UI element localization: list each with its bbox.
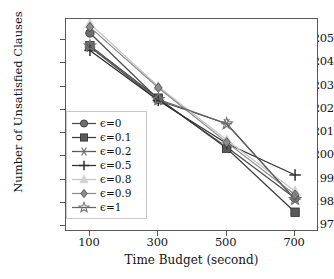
legend-label: ϵ=0.2: [100, 146, 131, 157]
x-axis-title: Time Budget (second): [65, 254, 318, 267]
legend-label: ϵ=0.1: [100, 132, 131, 143]
legend-label: ϵ=0: [100, 118, 121, 129]
legend-item[interactable]: ϵ=0.9: [70, 186, 142, 200]
legend-label: ϵ=1: [100, 202, 121, 213]
legend-item[interactable]: ϵ=0.2: [70, 144, 142, 158]
x-tick-label: 700: [269, 236, 319, 248]
x-tick-mark: [226, 231, 227, 236]
legend: ϵ=0ϵ=0.1ϵ=0.2ϵ=0.5ϵ=0.8ϵ=0.9ϵ=1: [66, 111, 147, 219]
x-tick-label: 100: [64, 236, 114, 248]
legend-item[interactable]: ϵ=1: [70, 200, 142, 214]
x-tick-label: 500: [201, 236, 251, 248]
legend-item[interactable]: ϵ=0.8: [70, 172, 142, 186]
legend-label: ϵ=0.9: [100, 188, 131, 199]
legend-marker-plus-icon: [70, 159, 98, 172]
legend-item[interactable]: ϵ=0.1: [70, 130, 142, 144]
x-tick-mark: [157, 231, 158, 236]
x-tick-mark: [294, 231, 295, 236]
legend-item[interactable]: ϵ=0: [70, 116, 142, 130]
y-axis-title: Number of Unsatisfied Clauses: [12, 2, 24, 202]
legend-marker-star-icon: [70, 201, 98, 214]
legend-marker-circle-icon: [70, 117, 98, 130]
data-point: [289, 169, 300, 180]
chart-figure: Number of Unsatisfied Clauses 1971981992…: [0, 0, 334, 279]
x-tick-label: 300: [132, 236, 182, 248]
legend-marker-asterisk-icon: [70, 145, 98, 158]
legend-label: ϵ=0.8: [100, 174, 131, 185]
legend-marker-diamond-icon: [70, 187, 98, 200]
legend-label: ϵ=0.5: [100, 160, 131, 171]
legend-marker-square-icon: [70, 131, 98, 144]
legend-item[interactable]: ϵ=0.5: [70, 158, 142, 172]
x-tick-mark: [89, 231, 90, 236]
data-point: [291, 208, 299, 216]
legend-marker-triangle-icon: [70, 173, 98, 186]
